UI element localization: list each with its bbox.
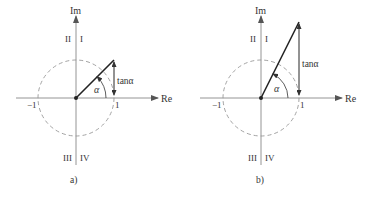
- quadrant-i: I: [80, 34, 83, 44]
- quadrant-iii: III: [248, 153, 257, 163]
- tick-one: 1: [115, 100, 120, 110]
- re-label: Re: [345, 93, 357, 104]
- tan-label: tanα: [302, 59, 319, 69]
- angle-label: α: [94, 84, 100, 95]
- tick-neg-one: −1: [27, 100, 37, 110]
- caption-a: a): [70, 175, 77, 186]
- quadrant-iv: IV: [265, 153, 275, 163]
- quadrant-i: I: [265, 34, 268, 44]
- tick-one: 1: [300, 100, 305, 110]
- quadrant-ii: II: [250, 34, 256, 44]
- figure-canvas: Im Re II I III IV −1 1 α tanα a) Im Re I…: [0, 0, 368, 198]
- im-label: Im: [255, 5, 266, 16]
- origin-dot: [74, 96, 78, 100]
- im-label: Im: [70, 5, 81, 16]
- quadrant-ii: II: [65, 34, 71, 44]
- caption-b: b): [256, 175, 264, 186]
- quadrant-iii: III: [63, 153, 72, 163]
- tick-neg-one: −1: [212, 100, 222, 110]
- quadrant-iv: IV: [80, 153, 90, 163]
- panel-b: Im Re II I III IV −1 1 α tanα b): [200, 5, 357, 186]
- tan-label: tanα: [117, 76, 134, 86]
- panel-a: Im Re II I III IV −1 1 α tanα a): [16, 5, 173, 186]
- origin-dot: [259, 96, 263, 100]
- angle-label: α: [274, 83, 280, 94]
- re-label: Re: [161, 93, 173, 104]
